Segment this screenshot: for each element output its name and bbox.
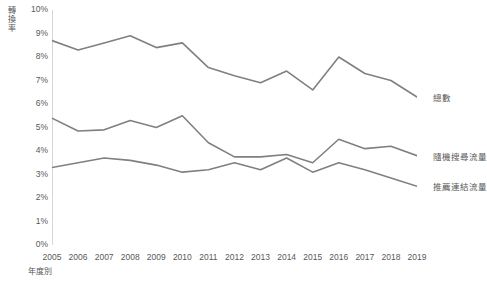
plot-area bbox=[52, 10, 417, 245]
y-axis-tick-label: 8% bbox=[18, 51, 48, 61]
x-axis-title: 年度別 bbox=[28, 265, 52, 276]
y-axis-tick-label: 1% bbox=[18, 216, 48, 226]
series-line bbox=[52, 36, 417, 97]
y-axis-tick-label: 2% bbox=[18, 192, 48, 202]
x-axis-tick-label: 2019 bbox=[401, 252, 433, 262]
y-axis-tick-label: 6% bbox=[18, 98, 48, 108]
series-canvas bbox=[52, 10, 417, 245]
y-axis-tick-label: 7% bbox=[18, 75, 48, 85]
y-axis-tick-label: 4% bbox=[18, 145, 48, 155]
series-label: 推薦連結流量 bbox=[433, 180, 487, 192]
y-axis-tick-label: 10% bbox=[18, 4, 48, 14]
y-axis-tick-label: 3% bbox=[18, 169, 48, 179]
series-line bbox=[52, 158, 417, 186]
y-axis-tick-label: 5% bbox=[18, 122, 48, 132]
series-label: 隨機搜尋流量 bbox=[433, 150, 487, 162]
y-axis-tick-label: 9% bbox=[18, 28, 48, 38]
series-label: 總數 bbox=[433, 91, 451, 103]
series-line bbox=[52, 116, 417, 163]
y-axis-tick-label: 0% bbox=[18, 239, 48, 249]
